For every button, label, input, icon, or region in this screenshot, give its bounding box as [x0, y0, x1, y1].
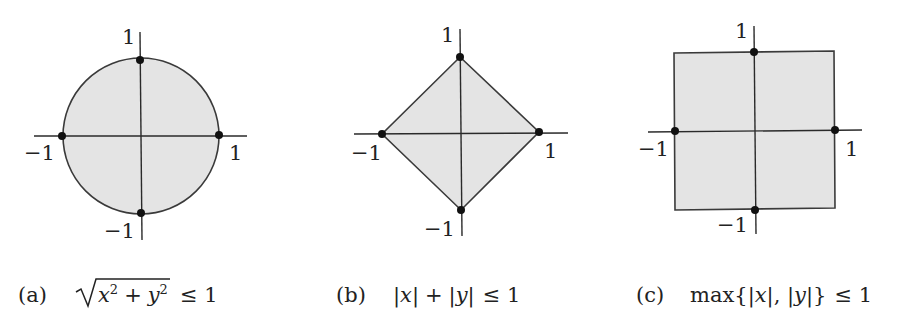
svg-text:x2+y2: x2+y2 — [98, 282, 168, 307]
svg-text:(c): (c) — [636, 283, 664, 307]
svg-text:max{|x|, |y|}≤ 1: max{|x|, |y|}≤ 1 — [690, 283, 872, 308]
caption-c-relation: ≤ 1 — [834, 283, 872, 307]
caption-c-x: x — [755, 283, 767, 307]
point-left — [671, 127, 679, 135]
caption-a-x: x — [98, 283, 110, 307]
panel-a-euclidean-ball: 1 −1 1 −1 — [24, 25, 247, 243]
caption-a: (a) x2+y2 ≤ 1 — [18, 279, 218, 307]
caption-a-plus: + — [124, 283, 142, 307]
point-bottom — [751, 206, 759, 214]
point-right — [831, 126, 839, 134]
point-top — [750, 48, 758, 56]
panel-c-linf-ball: 1 −1 1 −1 — [638, 19, 862, 237]
caption-b-abs-y: |y| — [449, 283, 475, 308]
point-bottom — [457, 206, 465, 214]
caption-c-open: {| — [734, 283, 754, 308]
tick-label-left: −1 — [638, 137, 669, 161]
tick-label-top: 1 — [122, 25, 135, 49]
point-top — [456, 53, 464, 61]
tick-label-bottom: −1 — [717, 213, 748, 237]
caption-a-exp-x: 2 — [110, 282, 118, 297]
caption-c-close: |} — [806, 283, 826, 308]
tick-label-top: 1 — [735, 19, 748, 43]
tick-label-top: 1 — [441, 23, 454, 47]
tick-label-right: 1 — [229, 141, 242, 165]
svg-text:(b): (b) — [336, 283, 366, 307]
caption-c-func: max — [690, 283, 734, 307]
tick-label-right: 1 — [544, 139, 557, 163]
caption-b-plus: + — [425, 283, 443, 307]
tick-label-bottom: −1 — [104, 219, 135, 243]
svg-text:≤ 1: ≤ 1 — [180, 283, 218, 307]
caption-b-label: (b) — [336, 283, 366, 307]
point-top — [136, 56, 144, 64]
tick-label-bottom: −1 — [424, 217, 455, 241]
point-left — [58, 132, 66, 140]
point-left — [378, 130, 386, 138]
caption-c: (c) max{|x|, |y|}≤ 1 — [636, 283, 872, 308]
caption-b-abs-x: |x| — [393, 283, 419, 308]
point-right — [535, 128, 543, 136]
caption-c-label: (c) — [636, 283, 664, 307]
caption-b-relation: ≤ 1 — [483, 283, 521, 307]
caption-b: (b) |x|+|y|≤ 1 — [336, 283, 520, 308]
caption-a-label: (a) — [18, 283, 47, 307]
point-right — [215, 131, 223, 139]
tick-label-left: −1 — [24, 141, 55, 165]
svg-text:(a): (a) — [18, 283, 47, 307]
unit-balls-figure: 1 −1 1 −1 1 −1 1 −1 1 −1 1 −1 (a) — [0, 0, 910, 328]
tick-label-left: −1 — [351, 141, 382, 165]
svg-text:|x|+|y|≤ 1: |x|+|y|≤ 1 — [393, 283, 520, 308]
panel-b-l1-ball: 1 −1 1 −1 — [351, 23, 568, 241]
caption-a-relation: ≤ 1 — [180, 283, 218, 307]
tick-label-right: 1 — [845, 137, 858, 161]
caption-c-mid: |, | — [767, 283, 795, 308]
point-bottom — [137, 209, 145, 217]
caption-a-exp-y: 2 — [160, 282, 168, 297]
